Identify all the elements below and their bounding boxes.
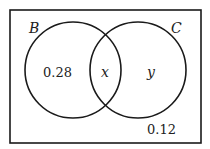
region-c-only-value: y [146,64,156,80]
region-outside-value: 0.12 [147,122,176,137]
region-b-only-value: 0.28 [43,65,72,80]
set-c-label: C [171,20,182,36]
venn-diagram: B C 0.28 x y 0.12 [0,0,210,149]
region-intersection-value: x [101,64,109,80]
set-b-label: B [28,20,39,36]
